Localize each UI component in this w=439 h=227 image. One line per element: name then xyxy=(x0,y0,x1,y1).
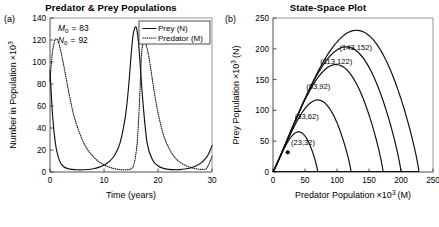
panel-b-letter: (b) xyxy=(225,14,236,24)
y-tick-label: 120 xyxy=(32,36,46,45)
orbit-labels: (23,32)(53,62)(83,92)(113,122)(143,152) xyxy=(291,43,373,147)
y-tick-label: 200 xyxy=(255,45,269,54)
panel-a-x-axis-title: Time (years) xyxy=(106,190,156,200)
legend-label-prey: Prey (N) xyxy=(158,24,188,33)
panel-a-time-series: Predator & Prey Populations (a) 02040608… xyxy=(0,0,220,227)
x-tick-label: 0 xyxy=(271,176,276,185)
panel-a-letter: (a) xyxy=(4,14,15,24)
orbit-curve xyxy=(273,65,383,172)
y-tick-label: 100 xyxy=(32,58,46,67)
y-tick-label: 140 xyxy=(32,14,46,23)
x-tick-label: 10 xyxy=(99,176,109,185)
panel-b-state-space: State-Space Plot (b) 050100150200250 050… xyxy=(219,0,439,227)
x-tick-label: 50 xyxy=(300,176,310,185)
x-tick-label: 20 xyxy=(153,176,163,185)
panel-a-x-ticks: 0102030 xyxy=(48,169,217,186)
y-tick-label: 150 xyxy=(255,76,269,85)
figure-container: Predator & Prey Populations (a) 02040608… xyxy=(0,0,439,227)
panel-b-y-axis-title: Prey Population×103(N) xyxy=(230,46,241,145)
panel-b-title: State-Space Plot xyxy=(223,2,433,13)
prey-curve xyxy=(50,27,212,170)
panel-b-plot: 050100150200250 050100150200250 Prey Pop… xyxy=(219,0,439,227)
x-tick-label: 0 xyxy=(48,176,53,185)
panel-b-axes xyxy=(273,18,433,172)
y-tick-label: 60 xyxy=(37,102,47,111)
y-tick-label: 0 xyxy=(41,168,46,177)
panel-a-legend: Prey (N) Predator (M) xyxy=(139,21,210,44)
y-tick-label: 100 xyxy=(255,106,269,115)
orbit-label: (23,32) xyxy=(291,138,316,147)
orbit-label: (113,122) xyxy=(320,57,352,66)
orbit-label: (83,92) xyxy=(306,82,331,91)
x-tick-label: 100 xyxy=(330,176,344,185)
x-tick-label: 250 xyxy=(426,176,439,185)
orbit-label: (143,152) xyxy=(340,43,373,52)
x-tick-label: 30 xyxy=(207,176,217,185)
y-tick-label: 50 xyxy=(260,137,270,146)
initial-condition-marker xyxy=(286,150,290,154)
x-tick-label: 200 xyxy=(394,176,408,185)
orbit-curve xyxy=(273,100,351,172)
annotation-n0: N0=92 xyxy=(58,35,88,46)
x-tick-label: 150 xyxy=(362,176,376,185)
panel-a-initial-conditions: M0=83 N0=92 xyxy=(58,23,89,46)
panel-b-x-axis-title: Predator Population×103(M) xyxy=(295,189,411,200)
panel-a-title: Predator & Prey Populations xyxy=(6,2,216,13)
y-tick-label: 250 xyxy=(255,14,269,23)
y-tick-label: 80 xyxy=(37,80,47,89)
annotation-m0: M0=83 xyxy=(58,23,89,34)
orbit-label: (53,62) xyxy=(295,112,320,121)
panel-a-plot: 020406080100120140 0102030 Number in Pop… xyxy=(0,0,220,227)
y-tick-label: 40 xyxy=(37,124,47,133)
y-tick-label: 0 xyxy=(264,168,269,177)
panel-a-y-axis-title: Number in Population×103 xyxy=(7,41,18,149)
legend-label-predator: Predator (M) xyxy=(158,34,203,43)
y-tick-label: 20 xyxy=(37,146,47,155)
